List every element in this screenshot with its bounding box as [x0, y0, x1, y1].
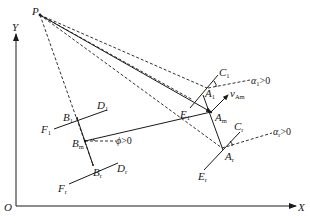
label-a1: A1 [204, 87, 215, 100]
origin-label: O [4, 201, 12, 213]
label-v-am: vAm [230, 87, 245, 100]
label-am: Am [214, 111, 227, 124]
line-f1-d1 [54, 110, 107, 129]
label-alpha1: α1>0 [251, 75, 270, 87]
x-axis-label: X [297, 201, 306, 213]
ray-p-ar [40, 15, 222, 148]
label-alphar: αr>0 [273, 126, 291, 138]
alphar-reference-line [222, 133, 272, 148]
label-cr: Cr [234, 120, 244, 133]
phi-arc [93, 139, 94, 141]
point-am [210, 111, 212, 113]
coordinate-axes: O X Y [4, 21, 306, 213]
alpha1-arc [214, 81, 216, 87]
line-bm-am [85, 112, 211, 141]
label-phi: ϕ>0 [116, 135, 132, 146]
label-e1: E1 [179, 108, 190, 121]
label-b1: B1 [63, 111, 73, 124]
label-dr: Dr [116, 162, 128, 175]
label-ar: Ar [224, 150, 235, 163]
label-c1: C1 [219, 66, 230, 79]
label-d1: D1 [96, 99, 108, 112]
point-p [39, 14, 42, 17]
alphar-arc [230, 141, 232, 146]
label-f1: F1 [40, 123, 51, 136]
y-axis-label: Y [12, 21, 20, 33]
point-b1 [76, 117, 78, 119]
vector-p-am [40, 15, 211, 112]
label-er: Er [197, 170, 208, 183]
vector-labels: vAm [230, 87, 245, 100]
kinematic-geometry-diagram: O X Y [0, 0, 310, 224]
label-bm: Bm [72, 137, 84, 150]
label-fr: Fr [57, 182, 68, 195]
line-e1-c1 [190, 75, 218, 108]
label-p: P [31, 5, 39, 17]
point-bm [84, 140, 86, 142]
point-labels: P C1 A1 Am Ar Cr E1 Er D1 B1 F1 Bm Dr Br… [31, 5, 244, 195]
line-er-cr [204, 132, 240, 170]
angle-labels: α1>0 αr>0 ϕ>0 [116, 75, 291, 146]
label-br: Br [93, 166, 103, 179]
ray-p-c1 [40, 15, 207, 88]
